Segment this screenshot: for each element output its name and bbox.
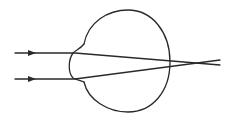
lower-ray-arrow-icon: [28, 76, 36, 82]
upper-ray-arrow-icon: [28, 50, 36, 56]
upper-ray: [15, 53, 220, 65]
eye-ray-diagram: [0, 0, 234, 120]
eyeball-outline: [84, 10, 170, 112]
cornea: [69, 44, 84, 82]
